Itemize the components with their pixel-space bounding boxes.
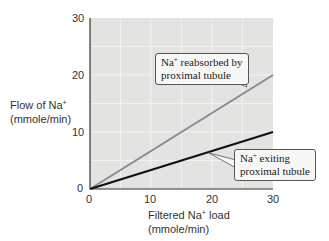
x-tick-10: 10 (144, 193, 156, 205)
x-tick-20: 20 (206, 193, 218, 205)
y-tick-30: 30 (72, 12, 84, 24)
x-tick-30: 30 (267, 193, 279, 205)
y-tick-0: 0 (77, 182, 83, 194)
callout-exiting: Na+ exiting proximal tubule (234, 149, 316, 181)
x-tick-0: 0 (86, 193, 92, 205)
y-tick-20: 20 (72, 69, 84, 81)
callout-reabsorbed: Na+ reabsorbed by proximal tubule (155, 53, 249, 85)
y-axis-label: Flow of Na+ (mmole/min) (10, 98, 71, 126)
y-tick-10: 10 (72, 126, 84, 138)
x-axis-label: Filtered Na+ load (mmole/min) (148, 208, 230, 236)
